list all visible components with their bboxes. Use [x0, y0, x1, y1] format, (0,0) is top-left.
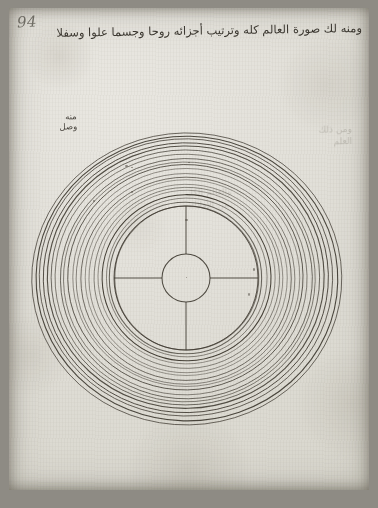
bleed-through-annotation: ومن ذلك العلم [270, 123, 353, 149]
bleed-through-text-block: والعالم الكل من الأفلاك [129, 185, 289, 214]
paper-stain-texture [9, 8, 369, 490]
ink-speck [253, 268, 255, 271]
folio-number: 94 [17, 12, 38, 31]
scan-vignette [9, 8, 369, 490]
ink-speck [185, 219, 188, 221]
paper-grain-texture [9, 8, 369, 490]
manuscript-scan: والعالم الكل من الأفلاك 94 ومنه لك صورة … [0, 0, 378, 508]
marginal-annotation-line-2: وصل [31, 121, 77, 133]
ink-speck [93, 200, 95, 202]
bleed-through-line-2: من الأفلاك [129, 198, 289, 214]
heading-caption: ومنه لك صورة العالم كله وترتيب أجزائه رو… [62, 18, 362, 45]
marginal-annotation: منه وصل [31, 111, 78, 133]
ink-speck [248, 293, 250, 296]
ink-speck [125, 165, 128, 167]
bleed-through-annotation-line-2: العلم [270, 135, 352, 149]
folio-page: والعالم الكل من الأفلاك [9, 8, 369, 490]
